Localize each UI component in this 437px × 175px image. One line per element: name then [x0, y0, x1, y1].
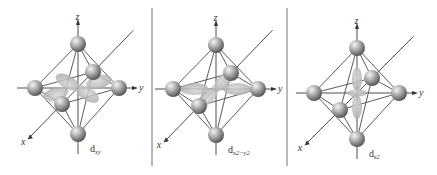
z-axis-label: z	[75, 11, 80, 22]
ligand-sphere-bottom	[349, 131, 365, 147]
orbital-lobe	[352, 95, 362, 119]
ligand-sphere-front	[191, 98, 207, 114]
y-axis-label: y	[277, 83, 283, 94]
ligand-sphere-back	[364, 70, 380, 86]
octahedral-d-orbitals-figure: zyxdxyzyxdx2−y2zyxdz2	[0, 0, 437, 175]
ligand-sphere-back	[85, 64, 101, 80]
ligand-sphere-right	[111, 80, 127, 96]
ligand-sphere-top	[208, 37, 224, 53]
orbital-label: dz2	[369, 148, 381, 160]
x-axis-label: x	[20, 136, 26, 147]
ligand-sphere-left	[165, 81, 181, 97]
ligand-sphere-back	[223, 65, 239, 81]
ligand-sphere-bottom	[70, 126, 86, 142]
octahedron-edge	[357, 93, 399, 139]
panel-dz2: zyxdz2	[296, 15, 424, 160]
orbital-lobe	[352, 67, 362, 91]
x-axis-label: x	[297, 142, 303, 153]
y-axis-label: y	[418, 87, 424, 98]
ligand-sphere-left	[306, 85, 322, 101]
orbital-label-subscript: x2−y2	[232, 149, 250, 156]
orbital-label-subscript: z2	[373, 153, 381, 160]
panel-dxy: zyxdxy	[17, 11, 144, 155]
y-axis-label: y	[138, 82, 144, 93]
ligand-sphere-right	[391, 85, 407, 101]
panel-dx2-y2: zyxdx2−y2	[155, 12, 283, 156]
ligand-sphere-top	[349, 40, 365, 56]
y-axis-arrow-icon	[132, 86, 138, 90]
octahedron-edge	[216, 89, 258, 135]
y-axis-arrow-icon	[271, 87, 277, 91]
ligand-sphere-front	[332, 102, 348, 118]
ligand-sphere-top	[70, 36, 86, 52]
orbital-label: dxy	[90, 143, 101, 155]
ligand-sphere-left	[27, 80, 43, 96]
ligand-sphere-right	[250, 81, 266, 97]
ligand-sphere-bottom	[208, 127, 224, 143]
orbital-torus	[347, 90, 367, 97]
ligand-sphere-front	[54, 96, 70, 112]
z-axis-label: z	[213, 12, 218, 23]
x-axis-label: x	[156, 139, 162, 150]
y-axis-arrow-icon	[412, 91, 418, 95]
z-axis-label: z	[354, 15, 359, 26]
orbital-label-subscript: xy	[94, 148, 101, 155]
orbital-label: dx2−y2	[228, 144, 250, 156]
